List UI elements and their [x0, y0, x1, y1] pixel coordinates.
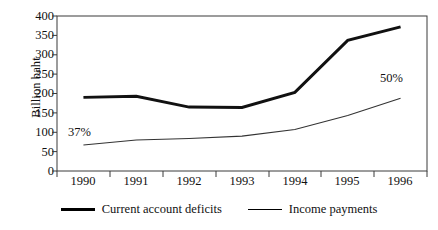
legend-label: Current account deficits [102, 202, 222, 216]
x-tick-label: 1994 [265, 175, 325, 188]
chart-legend: Current account deficits Income payments [0, 198, 438, 220]
x-tick-label: 1992 [159, 175, 219, 188]
x-tick-label: 1995 [317, 175, 377, 188]
annotation-50-percent: 50% [380, 72, 403, 85]
x-tick-label: 1990 [53, 175, 113, 188]
x-axis-tick-labels: 1990 1991 1992 1993 1994 1995 1996 [0, 0, 438, 230]
thin-line-swatch-icon [248, 209, 282, 210]
thick-line-swatch-icon [61, 208, 95, 211]
legend-item-income-payments: Income payments [248, 202, 378, 216]
x-tick-label: 1996 [370, 175, 430, 188]
x-tick-label: 1993 [212, 175, 272, 188]
annotation-37-percent: 37% [68, 126, 91, 139]
line-chart: Billion baht 400 350 300 250 200 150 100… [0, 0, 438, 230]
legend-label: Income payments [289, 202, 378, 216]
legend-item-current-account-deficits: Current account deficits [61, 202, 222, 216]
x-tick-label: 1991 [106, 175, 166, 188]
